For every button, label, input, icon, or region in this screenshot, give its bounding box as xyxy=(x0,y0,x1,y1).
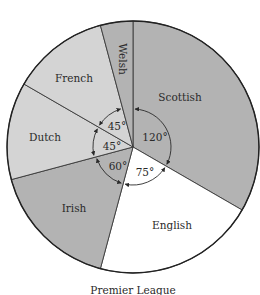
slice-label-scottish: Scottish xyxy=(158,91,202,103)
angle-label-dutch: 45° xyxy=(103,140,122,152)
angle-label-english: 75° xyxy=(136,166,155,178)
slice-label-english: English xyxy=(152,219,192,231)
pie-chart: Scottish English Irish Dutch French Wels… xyxy=(0,0,260,295)
slice-label-french: French xyxy=(55,72,93,84)
slice-label-irish: Irish xyxy=(62,202,87,214)
slice-label-welsh: Welsh xyxy=(117,43,129,75)
angle-label-french: 45° xyxy=(108,120,127,132)
angle-label-scottish: 120° xyxy=(142,131,167,143)
slice-label-dutch: Dutch xyxy=(29,131,61,143)
pie-slices xyxy=(7,21,259,273)
chart-caption: Premier League xyxy=(90,284,175,295)
angle-label-irish: 60° xyxy=(109,160,128,172)
